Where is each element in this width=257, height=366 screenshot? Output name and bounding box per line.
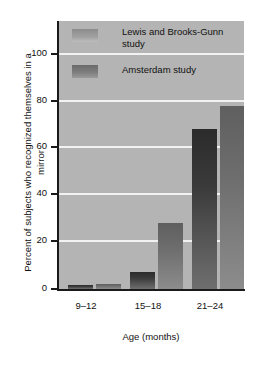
- x-tick-label-9-12: 9–12: [56, 300, 116, 311]
- y-tick-mark-60: [51, 146, 57, 148]
- bar-chart-figure: 100 80 60 40 20 0 Percent of subjects wh…: [0, 0, 257, 366]
- bar-15-18-amsterdam-study: [158, 223, 183, 289]
- legend-entry-amsterdam-study: Amsterdam study: [72, 64, 242, 96]
- chart-legend: Lewis and Brooks-Gunn study Amsterdam st…: [72, 28, 242, 96]
- y-tick-mark-40: [51, 193, 57, 195]
- legend-label-series0: Lewis and Brooks-Gunn study: [122, 26, 242, 50]
- x-tick-label-15-18: 15–18: [118, 300, 178, 311]
- legend-label-series1: Amsterdam study: [122, 64, 242, 76]
- legend-entry-lewis-and-brooks-gunn-study: Lewis and Brooks-Gunn study: [72, 28, 242, 60]
- y-tick-mark-80: [51, 100, 57, 102]
- bar-21-24-lewis-and-brooks-gunn-study: [192, 129, 217, 289]
- legend-swatch-icon-series0: [72, 29, 98, 42]
- x-tick-label-21-24: 21–24: [180, 300, 240, 311]
- bar-21-24-amsterdam-study: [220, 106, 244, 289]
- y-axis-title: Percent of subjects who recognized thems…: [22, 43, 47, 283]
- y-tick-mark-0: [51, 288, 57, 290]
- y-axis-line: [57, 21, 59, 290]
- x-axis-line: [57, 289, 245, 291]
- y-tick-label-0: 0: [42, 283, 47, 293]
- x-axis-title: Age (months): [58, 331, 244, 342]
- bar-15-18-lewis-and-brooks-gunn-study: [130, 272, 155, 289]
- gridline-80: [58, 100, 244, 102]
- y-tick-mark-100: [51, 53, 57, 55]
- legend-swatch-icon-series1: [72, 65, 98, 78]
- y-tick-mark-20: [51, 240, 57, 242]
